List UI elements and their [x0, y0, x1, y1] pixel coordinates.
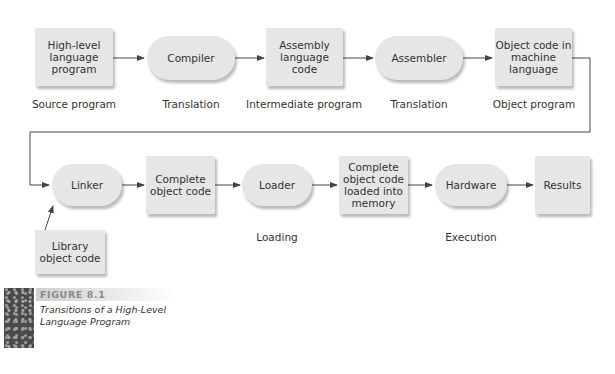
- node-hardware: Hardware: [435, 164, 507, 206]
- caption-execution: Execution: [430, 231, 512, 243]
- caption-source-program: Source program: [22, 98, 126, 110]
- node-label: Results: [544, 179, 582, 191]
- node-label: Compiler: [167, 52, 214, 64]
- node-label: Complete object code: [146, 173, 215, 197]
- figure-caption-line-2: Language Program: [40, 316, 166, 328]
- caption-translation-1: Translation: [147, 98, 235, 110]
- node-label: Assembler: [391, 52, 446, 64]
- node-complete-object-code: Complete object code: [146, 156, 215, 214]
- node-label: Assembly language code: [266, 39, 343, 75]
- node-loaded-into-memory: Complete object code loaded into memory: [339, 156, 408, 214]
- node-label: Loader: [259, 179, 295, 191]
- figure-caption-line-1: Transitions of a High-Level: [40, 304, 166, 316]
- node-assembler: Assembler: [375, 36, 463, 80]
- node-label: Library object code: [35, 240, 105, 264]
- node-loader: Loader: [242, 164, 312, 206]
- node-compiler: Compiler: [147, 36, 235, 80]
- figure-caption: Transitions of a High-Level Language Pro…: [40, 304, 166, 328]
- caption-intermediate-program: Intermediate program: [244, 98, 364, 110]
- figure-number: FIGURE 8.1: [40, 289, 105, 300]
- node-label: Object code in machine language: [495, 39, 572, 75]
- node-linker: Linker: [52, 164, 122, 206]
- node-label: Complete object code loaded into memory: [339, 161, 408, 209]
- node-label: Hardware: [446, 179, 497, 191]
- figure-texture-swatch: [4, 288, 34, 348]
- caption-loading: Loading: [242, 231, 312, 243]
- caption-translation-2: Translation: [375, 98, 463, 110]
- caption-object-program: Object program: [484, 98, 584, 110]
- node-library-object-code: Library object code: [35, 230, 105, 274]
- node-assembly-code: Assembly language code: [266, 28, 343, 86]
- node-label: Linker: [71, 179, 103, 191]
- node-high-level-program: High-level language program: [35, 28, 113, 86]
- node-label: High-level language program: [35, 39, 113, 75]
- node-object-code: Object code in machine language: [495, 28, 572, 86]
- node-results: Results: [535, 156, 590, 214]
